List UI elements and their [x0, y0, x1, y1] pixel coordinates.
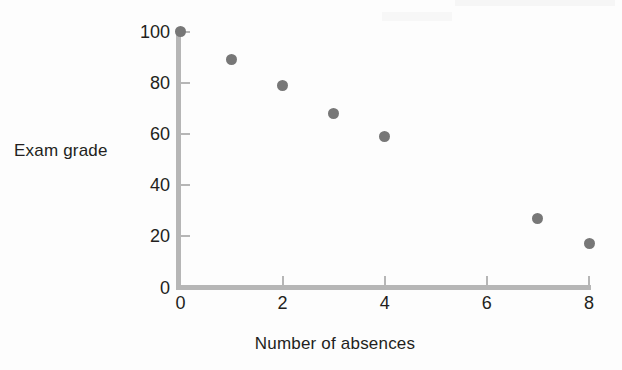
y-axis-tick-label: 40: [124, 175, 170, 196]
y-axis-tick: [181, 235, 190, 237]
y-axis-tick-label: 60: [124, 123, 170, 144]
data-point: [277, 80, 288, 91]
data-point: [328, 108, 339, 119]
data-point: [175, 26, 186, 37]
x-axis-title: Number of absences: [0, 334, 622, 354]
data-point: [379, 131, 390, 142]
x-axis-tick-label: 4: [365, 293, 405, 314]
x-axis-line: [176, 285, 591, 290]
x-axis-tick-label: 0: [161, 293, 201, 314]
y-axis-tick-label: 100: [124, 21, 170, 42]
y-axis-tick: [181, 133, 190, 135]
y-axis-line: [176, 31, 181, 290]
data-point: [226, 54, 237, 65]
x-axis-title-text: Number of absences: [255, 334, 415, 354]
x-axis-tick: [384, 276, 386, 285]
x-axis-tick: [282, 276, 284, 285]
data-point: [532, 213, 543, 224]
y-axis-tick-label: 80: [124, 72, 170, 93]
x-axis-tick-label: 2: [263, 293, 303, 314]
y-axis-tick: [181, 184, 190, 186]
y-axis-tick: [181, 82, 190, 84]
x-axis-tick-label: 8: [569, 293, 609, 314]
x-axis-tick: [486, 276, 488, 285]
x-axis-tick: [588, 276, 590, 285]
y-axis-title: Exam grade: [14, 141, 108, 161]
y-axis-tick-label: 20: [124, 226, 170, 247]
scatter-chart-figure: 020406080100 02468 Exam grade Number of …: [0, 0, 622, 370]
x-axis-tick-label: 6: [467, 293, 507, 314]
data-point: [584, 238, 595, 249]
plot-area: 020406080100 02468: [0, 0, 622, 370]
